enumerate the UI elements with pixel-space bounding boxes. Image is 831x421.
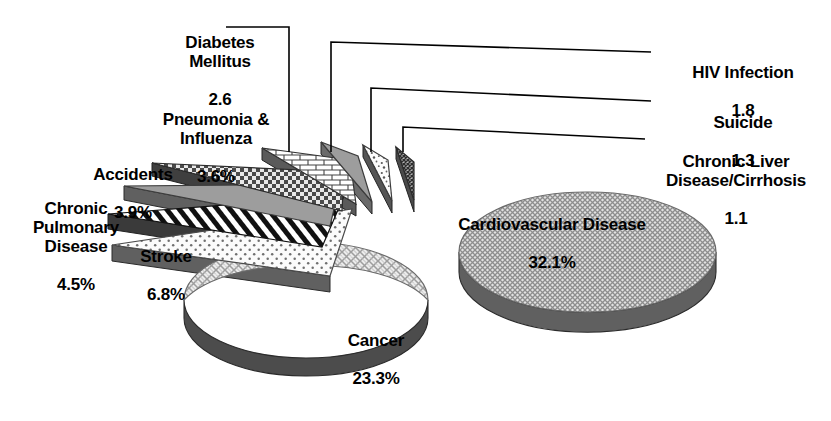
label-cancer: Cancer 23.3% [316, 312, 436, 407]
label-cardiovascular-value: 32.1% [436, 253, 668, 272]
label-pneumonia-name: Pneumonia & Influenza [140, 110, 292, 148]
label-cancer-name: Cancer [316, 331, 436, 350]
label-cardiovascular-name: Cardiovascular Disease [436, 215, 668, 234]
leader-line-suicide [371, 88, 651, 152]
label-liver-name: Chronic Liver Disease/Cirrhosis [641, 152, 831, 190]
label-hiv-name: HIV Infection [655, 63, 831, 82]
label-stroke-value: 6.8% [118, 285, 214, 304]
label-liver-value: 1.1 [641, 209, 831, 228]
label-liver: Chronic Liver Disease/Cirrhosis 1.1 [641, 133, 831, 247]
label-diabetes-name: Diabetes Mellitus [152, 33, 288, 71]
leader-line-liver [403, 127, 645, 152]
label-cancer-value: 23.3% [316, 369, 436, 388]
label-stroke: Stroke 6.8% [118, 228, 214, 323]
label-cardiovascular: Cardiovascular Disease 32.1% [436, 196, 668, 291]
label-stroke-name: Stroke [118, 247, 214, 266]
leader-line-hiv [331, 42, 651, 152]
slice-liver[interactable] [396, 147, 414, 200]
pie-chart: Diabetes Mellitus 2.6 Pneumonia & Influe… [0, 0, 831, 421]
label-suicide-name: Suicide [655, 113, 831, 132]
